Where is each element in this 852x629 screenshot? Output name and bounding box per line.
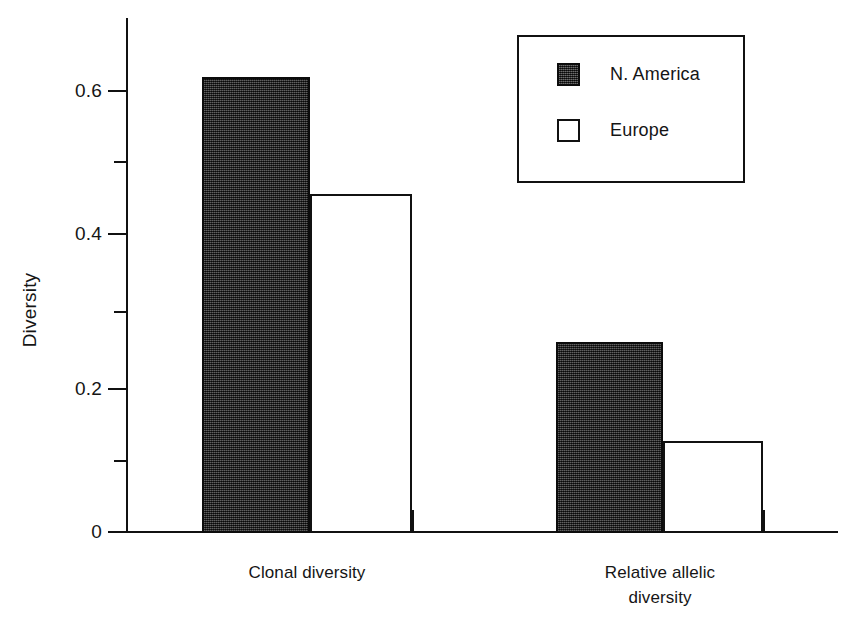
y-tick-label-0: 0 [56,522,102,541]
legend-item-n-america: N. America [557,63,700,86]
legend: N. America Europe [517,35,745,183]
y-tick-label-wrap-0.2: 0.2 [0,379,102,398]
category-label-clonal-diversity: Clonal diversity [197,560,417,585]
y-tick-major-0.4 [108,233,127,235]
y-tick-label-wrap-0: 0 [0,522,102,541]
bar-relative-allelic-diversity-n-america [556,342,663,533]
bar-clonal-diversity-europe [310,194,412,533]
category-label-clonal-diversity-line1: Clonal diversity [197,560,417,585]
y-tick-minor-0.1 [114,460,127,462]
bar-clonal-diversity-n-america [202,77,310,533]
legend-label-n-america: N. America [610,64,700,85]
legend-item-europe: Europe [557,119,669,142]
y-tick-label-wrap-0.6: 0.6 [0,81,102,100]
legend-swatch-n-america [557,63,580,86]
y-tick-minor-0.3 [114,311,127,313]
y-tick-label-wrap-0.4: 0.4 [0,224,102,243]
bar-relative-allelic-diversity-europe [663,441,763,533]
category-label-relative-allelic-diversity-line2: diversity [550,585,770,610]
y-tick-label-0.6: 0.6 [56,81,102,100]
bar-chart-figure: Diversity 0.6 0.4 0.2 0 Clonal diversity [0,0,852,629]
y-tick-major-0 [108,531,127,533]
x-tick-group2-end [763,510,765,532]
category-label-relative-allelic-diversity: Relative allelic diversity [550,560,770,610]
y-tick-major-0.6 [108,90,127,92]
y-tick-major-0.2 [108,388,127,390]
y-tick-minor-0.5 [114,161,127,163]
legend-swatch-europe [557,119,580,142]
legend-label-europe: Europe [610,120,669,141]
y-tick-label-0.2: 0.2 [56,379,102,398]
y-axis-title: Diversity [10,250,50,370]
y-axis-line [126,18,128,533]
category-label-relative-allelic-diversity-line1: Relative allelic [550,560,770,585]
x-tick-group1-end [412,510,414,532]
y-axis-title-text: Diversity [19,273,41,348]
y-tick-label-0.4: 0.4 [56,224,102,243]
